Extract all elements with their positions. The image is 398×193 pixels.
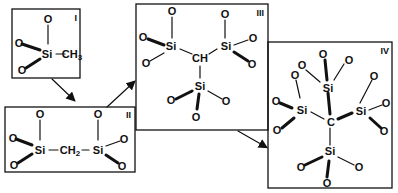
panel-label-iii: III xyxy=(256,8,264,18)
atom-o: O xyxy=(18,64,27,76)
panel-label-iv: IV xyxy=(380,46,389,56)
panel-i: I O O O Si CH3 xyxy=(12,9,83,78)
atom-si: Si xyxy=(325,145,335,157)
atom-o: O xyxy=(94,108,103,120)
atom-o: O xyxy=(248,58,257,70)
atom-o: O xyxy=(120,133,129,145)
arrow-ii-to-iii xyxy=(107,82,134,107)
panel-iii: III O O O O O O Si Si CH Si O O O xyxy=(136,4,268,130)
atom-o: O xyxy=(118,160,127,172)
atom-o: O xyxy=(192,111,201,123)
panel-label-i: I xyxy=(74,13,77,23)
atom-o: O xyxy=(168,5,177,17)
atom-si: Si xyxy=(195,80,205,92)
atom-o: O xyxy=(272,95,281,107)
atom-si: Si xyxy=(221,40,231,52)
atom-o: O xyxy=(319,48,328,60)
atom-o: O xyxy=(345,54,354,66)
atom-si: Si xyxy=(93,144,103,156)
atom-si: Si xyxy=(42,48,52,60)
atom-o: O xyxy=(142,57,151,69)
atom-o: O xyxy=(323,177,332,189)
atom-o: O xyxy=(297,161,306,173)
atom-o: O xyxy=(382,97,391,109)
atom-o: O xyxy=(355,161,364,173)
atom-o: O xyxy=(291,69,300,81)
atom-si: Si xyxy=(323,82,333,94)
atom-o: O xyxy=(44,13,53,25)
arrow-iii-to-iv xyxy=(238,131,266,147)
atom-o: O xyxy=(222,95,231,107)
atom-si: Si xyxy=(297,104,307,116)
atom-o: O xyxy=(15,37,24,49)
atom-o: O xyxy=(167,94,176,106)
atom-o: O xyxy=(273,124,282,136)
atom-si: Si xyxy=(356,105,366,117)
atom-ch: CH xyxy=(192,52,208,64)
atom-si: Si xyxy=(166,40,176,52)
atom-o: O xyxy=(10,159,19,171)
atom-o: O xyxy=(139,31,148,43)
atom-c: C xyxy=(327,116,335,128)
arrow-i-to-ii xyxy=(52,79,74,100)
atom-o: O xyxy=(9,132,18,144)
atom-o: O xyxy=(36,108,45,120)
atom-o: O xyxy=(221,8,230,20)
atom-si: Si xyxy=(35,144,45,156)
atom-o: O xyxy=(249,32,258,44)
atom-o: O xyxy=(380,125,389,137)
atom-o: O xyxy=(370,70,379,82)
panel-iv: IV O O O Si O O O Si C Si O O O Si O xyxy=(268,42,392,189)
panel-label-ii: II xyxy=(126,110,131,120)
atom-ch2: CH2 xyxy=(60,144,81,158)
silicon-carbon-diagram: I O O O Si CH3 II O O O O O O Si CH2 Si … xyxy=(0,0,398,193)
panel-ii: II O O O O O O Si CH2 Si xyxy=(5,107,135,172)
